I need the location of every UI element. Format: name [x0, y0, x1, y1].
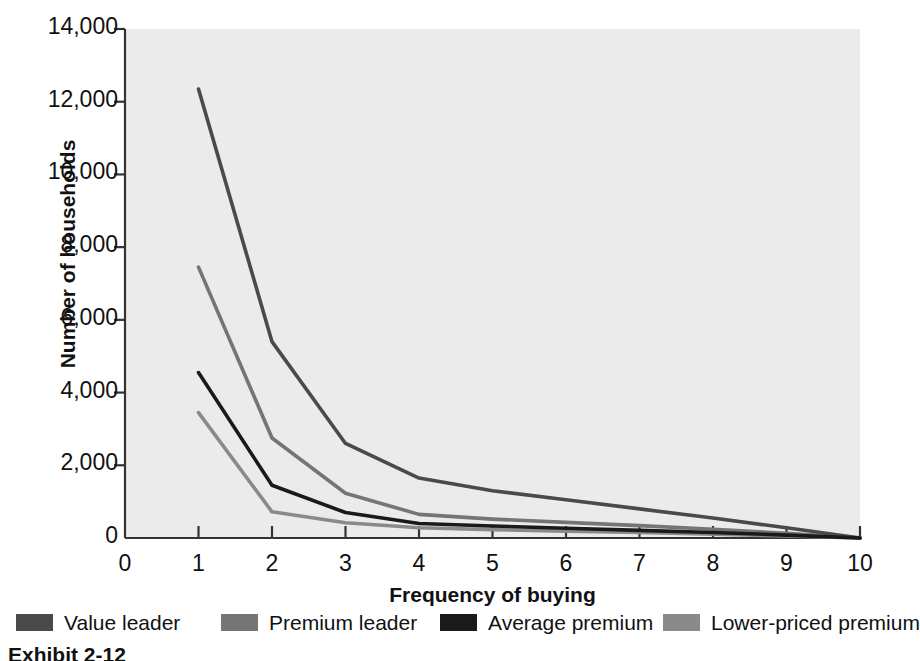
y-axis-tick-label: 10,000 — [6, 158, 118, 185]
x-axis-tick-label: 7 — [610, 550, 670, 577]
chart-legend: Value leaderPremium leaderAverage premiu… — [8, 608, 878, 638]
x-axis-tick-label: 2 — [242, 550, 302, 577]
legend-swatch — [16, 614, 53, 631]
y-axis-tick-label: 12,000 — [6, 86, 118, 113]
y-axis-tick-label: 4,000 — [6, 377, 118, 404]
legend-swatch — [440, 614, 477, 631]
y-axis-tick-label: 14,000 — [6, 13, 118, 40]
exhibit-caption: Exhibit 2-12 — [8, 643, 126, 661]
legend-label: Value leader — [64, 612, 180, 633]
y-axis-tick-label: 6,000 — [6, 304, 118, 331]
legend-label: Average premium — [488, 612, 653, 633]
x-axis-tick-label: 4 — [389, 550, 449, 577]
x-axis-tick-label: 5 — [463, 550, 523, 577]
x-axis-tick-label: 6 — [536, 550, 596, 577]
y-axis-tick-label: 2,000 — [6, 449, 118, 476]
legend-item: Average premium — [440, 608, 653, 636]
x-axis-title: Frequency of buying — [125, 583, 860, 607]
legend-item: Value leader — [16, 608, 180, 636]
x-axis-tick-label: 0 — [95, 550, 155, 577]
x-axis-tick-label: 8 — [683, 550, 743, 577]
y-axis-tick-label: 0 — [6, 522, 118, 549]
legend-label: Lower-priced premium — [711, 612, 920, 633]
x-axis-tick-label: 1 — [169, 550, 229, 577]
legend-item: Premium leader — [221, 608, 417, 636]
x-axis-tick-label: 10 — [830, 550, 890, 577]
x-axis-tick-label: 9 — [757, 550, 817, 577]
legend-item: Lower-priced premium — [663, 608, 920, 636]
legend-swatch — [663, 614, 700, 631]
legend-swatch — [221, 614, 258, 631]
y-axis-tick-label: 8,000 — [6, 231, 118, 258]
x-axis-tick-label: 3 — [316, 550, 376, 577]
legend-label: Premium leader — [269, 612, 417, 633]
